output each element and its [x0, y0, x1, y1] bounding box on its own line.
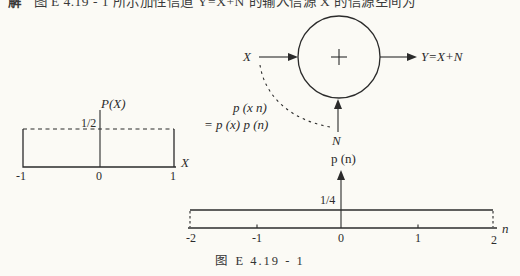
input-arrow [259, 53, 298, 61]
noise-source-label: N [332, 134, 341, 147]
pn-plot [188, 170, 497, 228]
pn-xaxis-label: n [502, 222, 509, 235]
pn-y-axis-arrowhead [337, 170, 345, 180]
figure-page: 解图 E 4.19 - 1 所示加性信道 Y=X+N 的输入信源 X 的信源空间… [0, 0, 520, 276]
figure-caption: 图 E 4.19 - 1 [215, 250, 304, 269]
output-arrow [380, 53, 417, 61]
output-label: Y=X+N [421, 50, 462, 63]
px-tick-zero: 0 [96, 170, 102, 182]
px-axis-label: P(X) [101, 97, 126, 110]
input-source-label: X [243, 50, 251, 63]
pn-tick-one: 1 [415, 232, 421, 244]
noise-arrow [334, 99, 342, 132]
independence-curve [260, 65, 330, 127]
px-xaxis-label: X [181, 156, 189, 169]
px-plot [23, 110, 176, 167]
independence-equation-label: = p (x) p (n) [204, 118, 268, 131]
pn-tick-minus2: -2 [186, 232, 196, 244]
px-tick-one: 1 [170, 170, 176, 182]
px-level-label: 1/2 [81, 117, 96, 129]
pn-axis-label: p (n) [331, 152, 356, 165]
px-tick-minus1: -1 [16, 170, 26, 182]
plus-icon [331, 49, 347, 65]
pn-tick-zero: 0 [338, 232, 344, 244]
pn-tick-two: 2 [491, 234, 497, 246]
pn-tick-minus1: -1 [252, 232, 262, 244]
pn-level-label: 1/4 [320, 194, 335, 206]
joint-probability-label: p (x n) [233, 101, 267, 114]
